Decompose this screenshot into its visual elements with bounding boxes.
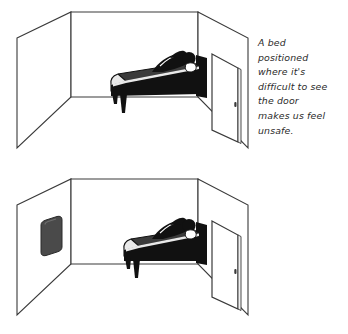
room-scene-2 (0, 167, 258, 334)
doorknob-icon (234, 269, 236, 274)
left-wall (17, 12, 71, 148)
illustration-page: A bed positioned where it's difficult to… (0, 0, 348, 334)
caption-text-unsafe: A bed positioned where it's difficult to… (258, 36, 348, 138)
bed-leg-front (133, 259, 140, 278)
pillow (185, 63, 196, 72)
open-door (212, 221, 238, 309)
panel-bed-with-mirror: Cure the condition by hanging a mirror t… (0, 167, 348, 334)
pillow (185, 230, 196, 239)
mirror (41, 216, 62, 255)
doorknob-icon (234, 102, 236, 107)
bed-leg-front (120, 94, 127, 113)
door-edge-thickness (238, 68, 241, 144)
door-edge-thickness (238, 235, 241, 311)
open-door (212, 54, 238, 142)
panel-bed-unsafe: A bed positioned where it's difficult to… (0, 0, 348, 167)
bed-leg-back (112, 93, 118, 104)
room-scene-1 (0, 0, 258, 167)
